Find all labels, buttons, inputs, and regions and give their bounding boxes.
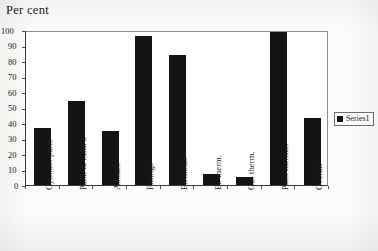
x-axis-tick-mark xyxy=(25,186,26,189)
bar-chart-figure: Per cent 0102030405060708090100 Cylinder… xyxy=(0,0,378,251)
x-axis-tick-mark xyxy=(294,186,295,189)
legend-entry-label: Series1 xyxy=(346,115,370,123)
y-axis-tick-label: 60 xyxy=(8,89,17,98)
y-axis-tick-label: 90 xyxy=(8,42,17,51)
x-axis-category-label: Fittings xyxy=(146,163,155,190)
legend: Series1 xyxy=(334,112,374,126)
y-axis-tick-label: 50 xyxy=(8,104,17,113)
y-axis-tick-label: 30 xyxy=(8,135,17,144)
x-axis-category-label: Elements xyxy=(180,157,189,190)
x-axis-tick-mark xyxy=(160,186,161,189)
y-axis-tick-label: 10 xyxy=(8,166,17,175)
y-axis-tick-label: 80 xyxy=(8,58,17,67)
x-axis-category-label: El. therm. xyxy=(214,155,223,190)
x-axis-tick-mark xyxy=(193,186,194,189)
x-axis-tick-mark xyxy=(92,186,93,189)
y-axis-title: Per cent xyxy=(6,3,49,18)
legend-square-marker-icon xyxy=(337,116,343,122)
x-axis-category-label: Cylinder parts xyxy=(45,140,54,190)
x-axis-tick-mark xyxy=(126,186,127,189)
y-axis-tick-label: 100 xyxy=(1,27,14,36)
x-axis-tick-mark xyxy=(261,186,262,189)
x-axis-category-label: Anodes xyxy=(113,163,122,190)
y-axis-tick-label: 70 xyxy=(8,73,17,82)
x-axis-category-label: Gas therm. xyxy=(247,151,256,190)
x-axis-category-label: Pilot thermo. xyxy=(281,144,290,190)
y-axis-tick-label: 20 xyxy=(8,151,17,160)
x-axis-category-label: Paint & insul'n xyxy=(79,134,88,190)
y-axis-tick-label: 0 xyxy=(14,182,18,191)
x-axis-tick-mark xyxy=(227,186,228,189)
x-axis-tick-mark xyxy=(328,186,329,189)
y-axis-tick-label: 40 xyxy=(8,120,17,129)
x-axis-tick-mark xyxy=(59,186,60,189)
x-axis-category-label: Overall xyxy=(315,164,324,190)
